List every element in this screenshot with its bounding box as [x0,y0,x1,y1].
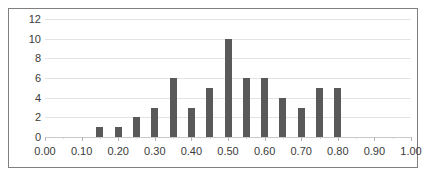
x-axis-minor-tick [393,137,394,139]
x-axis-tick-label: 0.40 [181,145,202,158]
bar [170,78,177,137]
x-axis-tick-label: 0.80 [327,145,348,158]
chart-frame: 121086420 0.000.100.200.300.400.500.600.… [8,8,418,168]
x-axis-minor-tick [100,137,101,139]
bar [298,108,305,138]
x-axis-ticks [45,137,411,142]
bar [96,127,103,137]
x-axis-major-tick [338,137,339,141]
bar [225,39,232,137]
x-axis-tick-label: 0.00 [34,145,55,158]
x-axis-major-tick [374,137,375,141]
x-axis-major-tick [155,137,156,141]
y-axis-tick-label: 2 [13,112,41,123]
bar [151,108,158,138]
x-axis-tick-label: 0.70 [290,145,311,158]
y-axis-tick-label: 0 [13,132,41,143]
x-axis-minor-tick [320,137,321,139]
bar [334,88,341,137]
y-axis-tick-label: 12 [13,14,41,25]
y-axis-tick-label: 4 [13,92,41,103]
x-axis: 0.000.100.200.300.400.500.600.700.800.90… [45,145,411,161]
x-axis-tick-label: 1.00 [400,145,421,158]
bar [206,88,213,137]
chart-plot-wrapper: 121086420 0.000.100.200.300.400.500.600.… [9,9,417,167]
x-axis-minor-tick [246,137,247,139]
bar [243,78,250,137]
bar [261,78,268,137]
x-axis-minor-tick [356,137,357,139]
y-axis: 121086420 [13,19,41,137]
x-axis-major-tick [82,137,83,141]
x-axis-major-tick [118,137,119,141]
x-axis-minor-tick [63,137,64,139]
x-axis-major-tick [45,137,46,141]
bar [279,98,286,137]
x-axis-tick-label: 0.30 [144,145,165,158]
x-axis-minor-tick [173,137,174,139]
bar-series [45,19,411,137]
bar [115,127,122,137]
x-axis-tick-label: 0.10 [71,145,92,158]
x-axis-major-tick [228,137,229,141]
x-axis-major-tick [265,137,266,141]
x-axis-tick-label: 0.60 [254,145,275,158]
y-axis-tick-label: 8 [13,53,41,64]
x-axis-major-tick [301,137,302,141]
bar [133,117,140,137]
y-axis-tick-label: 10 [13,33,41,44]
x-axis-minor-tick [283,137,284,139]
x-axis-minor-tick [210,137,211,139]
x-axis-tick-label: 0.20 [107,145,128,158]
plot-area [45,19,411,137]
x-axis-minor-tick [137,137,138,139]
x-axis-tick-label: 0.50 [217,145,238,158]
x-axis-major-tick [411,137,412,141]
x-axis-major-tick [191,137,192,141]
y-axis-tick-label: 6 [13,73,41,84]
x-axis-tick-label: 0.90 [364,145,385,158]
bar [316,88,323,137]
bar [188,108,195,138]
